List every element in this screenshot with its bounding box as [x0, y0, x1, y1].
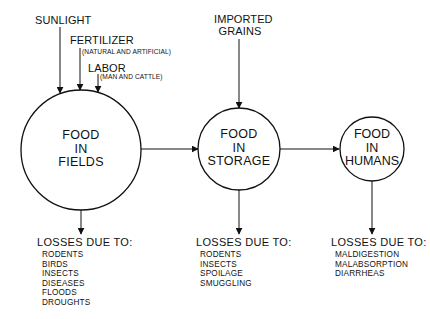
- storage-losses-heading: LOSSES DUE TO:: [196, 237, 292, 248]
- list-item: DIARRHEAS: [335, 269, 408, 279]
- list-item: INSECTS: [42, 269, 90, 279]
- list-item: FLOODS: [42, 288, 90, 298]
- node-fields-line1: FOOD: [41, 129, 121, 143]
- node-storage-label: FOOD IN STORAGE: [199, 128, 279, 169]
- fertilizer-note: (NATURAL AND ARTIFICIAL): [82, 49, 171, 56]
- fertilizer-label: FERTILIZER: [70, 35, 134, 46]
- labor-note: (MAN AND CATTLE): [100, 74, 163, 81]
- node-humans-line2: IN: [337, 142, 407, 156]
- list-item: INSECTS: [200, 260, 252, 270]
- fields-losses-heading: LOSSES DUE TO:: [37, 237, 133, 248]
- storage-losses-list: RODENTS INSECTS SPOILAGE SMUGGLING: [200, 250, 252, 288]
- humans-losses-heading: LOSSES DUE TO:: [331, 237, 427, 248]
- imported-grains-label-line1: IMPORTED: [214, 14, 266, 25]
- imported-grains-label-line2: GRAINS: [214, 26, 266, 37]
- node-humans-label: FOOD IN HUMANS: [337, 128, 407, 169]
- sunlight-label: SUNLIGHT: [35, 15, 91, 26]
- humans-losses-list: MALDIGESTION MALABSORPTION DIARRHEAS: [335, 250, 408, 279]
- node-storage-line2: IN: [199, 142, 279, 156]
- node-humans-line1: FOOD: [337, 128, 407, 142]
- fields-losses-list: RODENTS BIRDS INSECTS DISEASES FLOODS DR…: [42, 250, 90, 308]
- node-storage-line3: STORAGE: [199, 155, 279, 169]
- list-item: RODENTS: [42, 250, 90, 260]
- list-item: DISEASES: [42, 279, 90, 289]
- list-item: SMUGGLING: [200, 279, 252, 289]
- list-item: SPOILAGE: [200, 269, 252, 279]
- node-humans-line3: HUMANS: [337, 155, 407, 169]
- list-item: MALABSORPTION: [335, 260, 408, 270]
- list-item: MALDIGESTION: [335, 250, 408, 260]
- node-fields-line2: IN: [41, 143, 121, 157]
- node-fields-label: FOOD IN FIELDS: [41, 129, 121, 170]
- list-item: RODENTS: [200, 250, 252, 260]
- list-item: DROUGHTS: [42, 298, 90, 308]
- node-fields-line3: FIELDS: [41, 156, 121, 170]
- food-loss-flow-diagram: SUNLIGHT FERTILIZER (NATURAL AND ARTIFIC…: [0, 0, 430, 319]
- list-item: BIRDS: [42, 260, 90, 270]
- node-storage-line1: FOOD: [199, 128, 279, 142]
